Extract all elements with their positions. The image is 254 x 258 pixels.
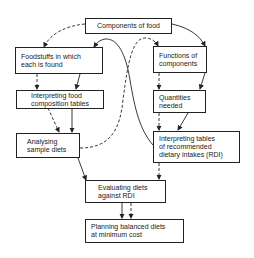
edge-components-functions	[172, 24, 205, 46]
node-label: Evaluating diets against RDI	[98, 184, 147, 200]
node-label: Functions of components	[159, 52, 197, 68]
node-label: Components of food	[97, 22, 160, 30]
edge-components-foodstuffs	[44, 24, 85, 47]
node-components-of-food: Components of food	[85, 18, 172, 34]
node-label: Planning balanced diets at minimum cost	[91, 223, 165, 239]
node-label: Quantities needed	[159, 94, 191, 110]
node-quantities: Quantities needed	[153, 90, 206, 113]
node-label: Foodstuffs in which each is found	[21, 53, 81, 69]
node-interpreting-food-tables: Interpreting food composition tables	[16, 90, 104, 109]
node-interpreting-rdi-tables: Interpreting tables of recommended dieta…	[153, 131, 240, 163]
node-label: Interpreting food composition tables	[31, 92, 89, 108]
node-functions: Functions of components	[153, 46, 207, 73]
node-label: Interpreting tables of recommended dieta…	[159, 135, 223, 159]
node-evaluating: Evaluating diets against RDI	[85, 180, 166, 203]
node-foodstuffs: Foodstuffs in which each is found	[15, 47, 103, 74]
node-analysing: Analysing sample diets	[16, 133, 80, 158]
node-label: Analysing sample diets	[27, 138, 66, 154]
node-planning: Planning balanced diets at minimum cost	[85, 219, 184, 243]
